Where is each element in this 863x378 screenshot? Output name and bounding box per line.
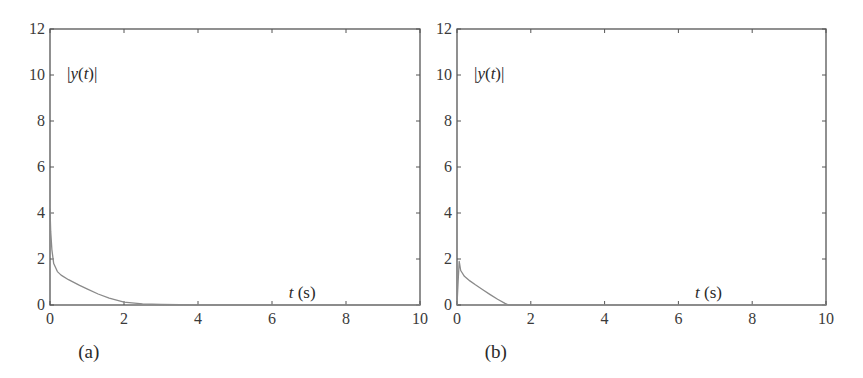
y-tick-label: 10 (29, 66, 45, 83)
data-curve (457, 261, 826, 305)
y-tick-label: 10 (436, 66, 452, 83)
y-tick-label: 0 (444, 296, 452, 313)
plot-frame (457, 29, 826, 305)
y-tick-label: 4 (444, 204, 452, 221)
chart-panel-a: 0246810024681012|y(t)|t (s)(a) (29, 20, 428, 363)
y-tick-label: 4 (37, 204, 45, 221)
panel-caption: (b) (485, 341, 507, 363)
x-tick-label: 2 (527, 310, 535, 327)
y-tick-label: 6 (37, 158, 45, 175)
x-annotation: t (s) (289, 283, 316, 302)
y-tick-label: 12 (29, 20, 45, 37)
chart-panel-b: 0246810024681012|y(t)|t (s)(b) (436, 20, 834, 363)
x-tick-label: 0 (453, 310, 461, 327)
x-tick-label: 2 (120, 310, 128, 327)
panel-caption: (a) (78, 341, 99, 363)
x-tick-label: 10 (818, 310, 834, 327)
plot-frame (50, 29, 420, 305)
x-tick-label: 6 (268, 310, 276, 327)
y-annotation: |y(t)| (474, 64, 504, 83)
y-tick-label: 8 (37, 112, 45, 129)
y-tick-label: 2 (444, 250, 452, 267)
x-tick-label: 4 (601, 310, 609, 327)
x-tick-label: 10 (412, 310, 428, 327)
y-tick-label: 6 (444, 158, 452, 175)
x-tick-label: 0 (46, 310, 54, 327)
y-tick-label: 0 (37, 296, 45, 313)
y-tick-label: 12 (436, 20, 452, 37)
y-tick-label: 8 (444, 112, 452, 129)
figure: 0246810024681012|y(t)|t (s)(a)0246810024… (0, 0, 863, 378)
x-tick-label: 8 (342, 310, 350, 327)
y-tick-label: 2 (37, 250, 45, 267)
x-tick-label: 4 (194, 310, 202, 327)
y-annotation: |y(t)| (67, 64, 97, 83)
x-tick-label: 6 (674, 310, 682, 327)
x-annotation: t (s) (695, 283, 722, 302)
x-tick-label: 8 (748, 310, 756, 327)
data-curve (50, 208, 420, 305)
